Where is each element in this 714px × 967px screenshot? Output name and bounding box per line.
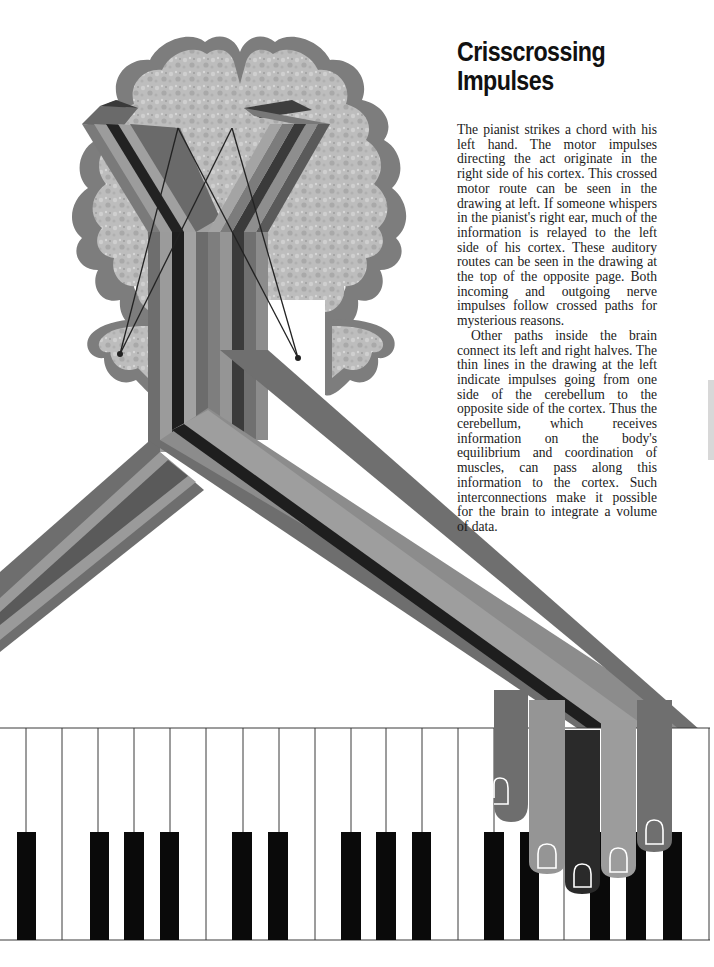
title-line-2: Impulses: [457, 66, 554, 96]
paragraph-1: The pianist strikes a chord with his lef…: [457, 123, 657, 329]
article: Crisscrossing Impulses The pianist strik…: [457, 38, 707, 535]
article-title: Crisscrossing Impulses: [457, 38, 672, 96]
title-line-1: Crisscrossing: [457, 37, 605, 67]
left-cerebellum-dot: [117, 351, 123, 357]
page-edge-shade: [708, 380, 714, 460]
finger-4: [601, 720, 636, 878]
right-cerebellum-dot: [295, 355, 301, 361]
paragraph-2: Other paths inside the brain connect its…: [457, 329, 657, 535]
finger-5: [637, 700, 672, 852]
left-descending-band: [0, 442, 204, 652]
finger-3: [565, 730, 600, 894]
finger-1: [494, 690, 528, 822]
finger-2: [529, 700, 565, 874]
